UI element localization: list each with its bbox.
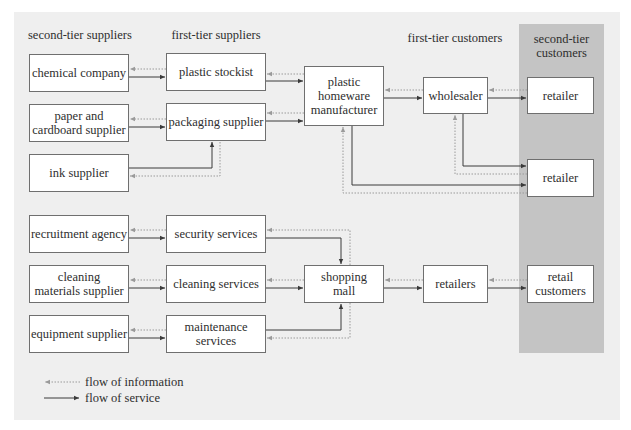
legend-service-label: flow of service: [85, 391, 160, 405]
header-second-tier-customers: second-tier customers: [519, 32, 604, 60]
node-retail-customers: retail customers: [527, 265, 594, 303]
node-plastic-stockist: plastic stockist: [166, 53, 266, 91]
node-chemical-company: chemical company: [29, 54, 129, 92]
node-retailer-1: retailer: [527, 77, 594, 114]
node-retailers: retailers: [423, 265, 488, 303]
node-maintenance-services: maintenance services: [166, 315, 266, 353]
node-wholesaler: wholesaler: [423, 77, 488, 114]
header-first-tier-suppliers: first-tier suppliers: [166, 28, 266, 42]
node-ink-supplier: ink supplier: [29, 154, 129, 192]
node-security-services: security services: [166, 215, 266, 253]
legend-information-label: flow of information: [85, 375, 184, 389]
node-shopping-mall: shopping mall: [304, 265, 384, 303]
node-cleaning-services: cleaning services: [166, 265, 266, 303]
header-second-tier-suppliers: second-tier suppliers: [28, 28, 138, 42]
node-cleaning-materials-supplier: cleaning materials supplier: [29, 265, 129, 303]
node-plastic-homeware-manufacturer: plastic homeware manufacturer: [304, 66, 384, 126]
node-packaging-supplier: packaging supplier: [166, 103, 266, 141]
supply-network-diagram: second-tier suppliers first-tier supplie…: [0, 0, 631, 430]
node-equipment-supplier: equipment supplier: [29, 315, 129, 353]
node-recruitment-agency: recruitment agency: [29, 215, 129, 253]
node-retailer-2: retailer: [527, 159, 594, 197]
header-first-tier-customers: first-tier customers: [405, 31, 505, 45]
node-paper-cardboard-supplier: paper and cardboard supplier: [29, 104, 129, 142]
